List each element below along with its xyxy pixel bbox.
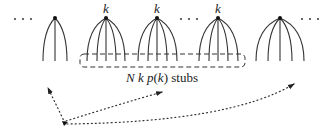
stub-count-label: N k p(k) stubs bbox=[125, 70, 198, 85]
ellipsis-right bbox=[301, 18, 319, 20]
node-1 bbox=[43, 16, 67, 61]
ellipsis-middle bbox=[180, 18, 198, 20]
node-vertex-icon bbox=[216, 16, 220, 20]
node-vertex-icon bbox=[104, 16, 108, 20]
arrow-to-node-1 bbox=[48, 88, 65, 123]
degree-label: k bbox=[215, 1, 221, 16]
degree-label: k bbox=[103, 1, 109, 16]
arrows bbox=[48, 84, 294, 124]
degree-label: k bbox=[154, 1, 160, 16]
ellipsis-left bbox=[14, 18, 32, 20]
node-vertex-icon bbox=[53, 16, 57, 20]
stub-diagram: k k k N k p(k) stubs bbox=[0, 0, 331, 134]
node-vertex-icon bbox=[278, 16, 282, 20]
node-5 bbox=[256, 16, 304, 61]
stub-group-box bbox=[80, 54, 245, 67]
arrow-to-box-label bbox=[66, 92, 162, 121]
arrow-to-node-5 bbox=[67, 84, 294, 124]
node-vertex-icon bbox=[155, 16, 159, 20]
